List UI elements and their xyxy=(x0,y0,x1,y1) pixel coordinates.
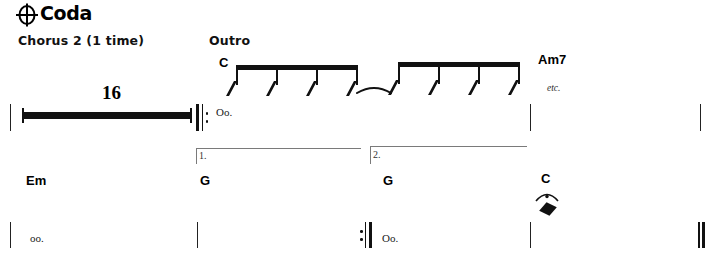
ending-number: 1. xyxy=(199,150,207,161)
barline xyxy=(700,104,701,131)
repeat-thick-line xyxy=(369,222,372,248)
repeat-thin-line xyxy=(365,222,366,248)
lyric-oo-2: oo. xyxy=(30,232,44,244)
slash-notehead xyxy=(306,81,317,96)
fermata-icon xyxy=(534,188,560,202)
repeat-thick-line xyxy=(196,104,199,131)
beam xyxy=(398,62,520,67)
chord-g-2: G xyxy=(383,173,393,188)
slash-notehead xyxy=(266,81,277,96)
chord-am7: Am7 xyxy=(538,52,566,67)
sheet-music-page: Coda Chorus 2 (1 time) Outro C Am7 etc. … xyxy=(0,0,709,264)
diamond-notehead-icon xyxy=(538,201,558,218)
repeat-dot-lower xyxy=(206,120,209,123)
ending-bracket-line xyxy=(196,148,361,149)
chord-c: C xyxy=(219,55,228,70)
beamed-slash-group xyxy=(390,62,520,100)
ending-number: 2. xyxy=(373,149,381,160)
beam xyxy=(236,65,358,70)
repeat-thin-line xyxy=(202,104,203,131)
slash-notehead xyxy=(388,80,399,95)
final-barline-thick xyxy=(702,222,705,248)
chorus-label: Chorus 2 (1 time) xyxy=(18,33,144,48)
coda-title: Coda xyxy=(40,2,92,24)
slash-notehead xyxy=(428,80,439,95)
chord-em: Em xyxy=(26,173,46,188)
ending-bracket-hook xyxy=(370,146,371,164)
ending-bracket-line xyxy=(370,146,527,147)
ending-bracket-2: 2. xyxy=(370,146,528,164)
multi-measure-rest-count: 16 xyxy=(102,82,121,104)
multi-measure-rest-bar xyxy=(22,112,192,119)
slash-notehead xyxy=(508,80,519,95)
repeat-dot-upper xyxy=(360,230,363,233)
chord-g-1: G xyxy=(200,173,210,188)
coda-icon xyxy=(14,2,40,28)
lyric-oo-3: Oo. xyxy=(382,232,398,244)
ending-bracket-hook xyxy=(196,148,197,164)
barline xyxy=(10,222,11,248)
slash-notehead xyxy=(226,81,237,96)
barline xyxy=(10,104,11,131)
slash-notehead xyxy=(468,80,479,95)
lyric-oo-1: Oo. xyxy=(216,106,232,118)
multi-measure-rest-cap-right xyxy=(190,108,192,123)
barline xyxy=(197,222,198,248)
outro-label: Outro xyxy=(209,33,250,48)
etc-marking: etc. xyxy=(547,83,560,93)
final-barline-thin xyxy=(698,222,700,248)
fermata-whole-note xyxy=(534,188,562,222)
barline xyxy=(530,104,531,131)
beamed-slash-group xyxy=(228,65,358,100)
ending-bracket-1: 1. xyxy=(196,148,362,164)
barline xyxy=(530,222,531,248)
repeat-dot-lower xyxy=(360,238,363,241)
chord-c-final: C xyxy=(541,171,550,186)
repeat-dot-upper xyxy=(206,112,209,115)
